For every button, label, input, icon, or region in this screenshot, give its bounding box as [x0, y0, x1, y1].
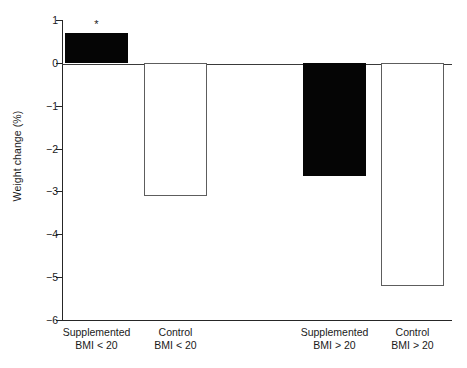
bar-0 — [65, 33, 128, 63]
category-label-line2: BMI < 20 — [63, 339, 131, 352]
category-label-line1: Control — [154, 326, 196, 339]
category-label-line2: BMI > 20 — [391, 339, 433, 352]
category-label-line1: Supplemented — [63, 326, 131, 339]
category-label-line1: Supplemented — [301, 326, 369, 339]
category-label-line2: BMI > 20 — [301, 339, 369, 352]
y-tick-label: −2 — [46, 143, 58, 155]
x-axis-category-label-0: SupplementedBMI < 20 — [63, 326, 131, 351]
bar-2 — [303, 63, 366, 177]
bar-3 — [381, 63, 444, 286]
category-label-line1: Control — [391, 326, 433, 339]
y-tick-label: 0 — [52, 57, 58, 69]
bar-chart: Weight change (%) 10−1−2−3−4−5−6 * Suppl… — [0, 0, 467, 368]
plot-area: 10−1−2−3−4−5−6 * — [62, 20, 452, 320]
y-tick-label: −1 — [46, 100, 58, 112]
y-tick-label: −3 — [46, 185, 58, 197]
y-axis-title: Weight change (%) — [11, 86, 23, 226]
x-axis-line — [62, 320, 452, 321]
x-axis-category-label-3: ControlBMI > 20 — [391, 326, 433, 351]
bar-1 — [144, 63, 207, 196]
x-axis-category-label-1: ControlBMI < 20 — [154, 326, 196, 351]
y-tick-label: −5 — [46, 271, 58, 283]
category-label-line2: BMI < 20 — [154, 339, 196, 352]
y-tick-label: 1 — [52, 14, 58, 26]
y-tick-label: −6 — [46, 314, 58, 326]
y-tick-label: −4 — [46, 228, 58, 240]
x-axis-category-label-2: SupplementedBMI > 20 — [301, 326, 369, 351]
significance-marker-0: * — [94, 19, 98, 30]
